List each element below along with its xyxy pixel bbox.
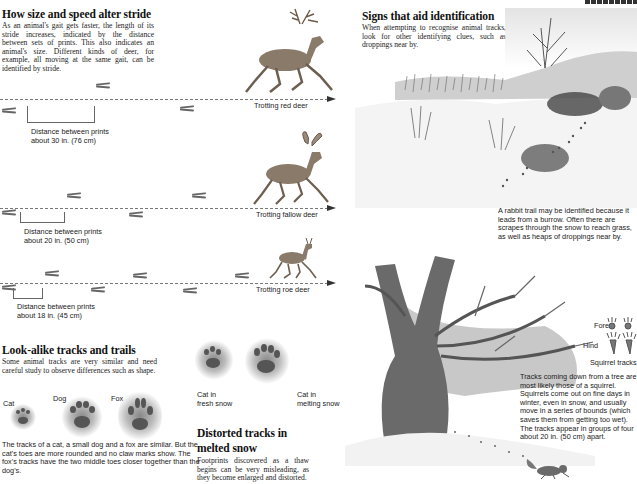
rabbit-caption: A rabbit trail may be identified because… (498, 207, 637, 241)
hoofprint-icon (235, 273, 249, 278)
hoofprint-icon (2, 108, 16, 113)
label-line: melting snow (297, 400, 340, 409)
lookalike-section-title: Look-alike tracks and trails (2, 344, 136, 356)
label-cat-melting-snow: Cat in melting snow (297, 391, 340, 408)
label-line: fresh snow (197, 400, 232, 409)
cat-fresh-snow-print-icon (195, 340, 233, 380)
label-dog: Dog (53, 395, 66, 404)
hoofprint-icon (133, 273, 147, 278)
animal-label-red-deer: Trotting red deer (254, 102, 308, 111)
distorted-section-title: Distorted tracks in melted snow (197, 426, 287, 456)
title-line: Distorted tracks in (197, 426, 287, 441)
trail-line-roe-deer (0, 283, 328, 284)
distance-value: about 20 in. (50 cm) (24, 237, 102, 246)
distorted-section-body: Footprints discovered as a thaw begins c… (197, 457, 309, 483)
hoofprint-icon (129, 212, 143, 217)
stride-section-title: How size and speed alter stride (2, 8, 151, 20)
stride-distance-label: Distance between prints about 18 in. (45… (17, 303, 95, 320)
fox-paw-print-icon (118, 390, 162, 442)
stride-bracket (27, 106, 95, 123)
trail-line-fallow-deer (0, 208, 328, 209)
cat-melting-snow-print-icon (245, 338, 289, 384)
roe-deer-illustration (268, 238, 324, 280)
hoofprint-icon (96, 83, 110, 88)
fallow-deer-illustration (250, 128, 340, 206)
squirrel-caption: Tracks coming down from a tree are most … (520, 373, 637, 442)
lookalike-caption: The tracks of a cat, a small dog and a f… (2, 441, 207, 475)
squirrel-tracks-icon (606, 316, 637, 356)
snow-landscape-rabbit-illustration (355, 8, 637, 208)
animal-label-roe-deer: Trotting roe deer (256, 286, 310, 295)
lookalike-section-body: Some animal tracks are very similar and … (2, 358, 157, 375)
stride-bracket (13, 288, 43, 299)
animal-label-fallow-deer: Trotting fallow deer (256, 211, 318, 220)
hoofprint-icon (45, 271, 59, 276)
hoofprint-icon (180, 106, 194, 111)
hoofprint-icon (67, 193, 81, 198)
distance-value: about 18 in. (45 cm) (17, 312, 95, 321)
label-hind: Hind (583, 342, 598, 351)
cat-paw-print-icon (10, 404, 36, 430)
arrow-icon (327, 280, 336, 286)
page-header-partial (585, 0, 637, 4)
hoofprint-icon (183, 288, 197, 293)
trail-line-red-deer (0, 99, 328, 100)
hoofprint-icon (192, 193, 206, 198)
stride-bracket (20, 212, 65, 223)
label-cat-fresh-snow: Cat in fresh snow (197, 391, 232, 408)
dog-paw-print-icon (62, 396, 102, 438)
title-line: melted snow (197, 441, 287, 456)
hoofprint-icon (2, 210, 16, 215)
red-deer-illustration (240, 4, 340, 98)
squirrel-illustration (525, 455, 580, 481)
stride-section-body: As an animal's gait gets faster, the len… (2, 22, 154, 74)
stride-distance-label: Distance between prints about 20 in. (50… (24, 228, 102, 245)
label-squirrel-tracks: Squirrel tracks (590, 359, 637, 368)
distance-value: about 30 in. (76 cm) (31, 137, 109, 146)
hoofprint-icon (91, 287, 105, 292)
stride-distance-label: Distance between prints about 30 in. (76… (31, 128, 109, 145)
